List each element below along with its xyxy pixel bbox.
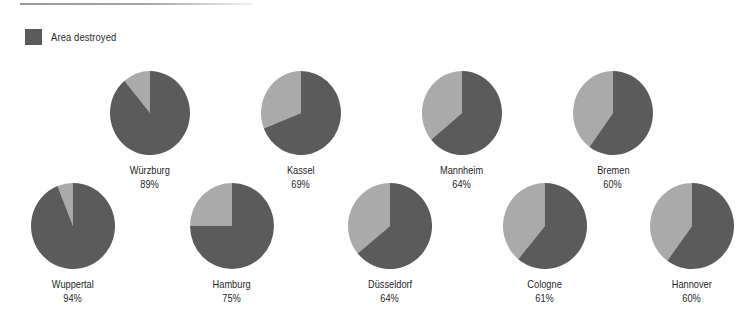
pie-chart-bremen: Bremen60% [571,69,655,190]
pie-chart-hamburg: Hamburg75% [188,181,276,304]
pie-city-label: Hannover [672,278,712,290]
pie-city-label: Düsseldorf [368,278,412,290]
pie-percent-label: 60% [683,292,701,304]
pie-city-label: Kassel [287,164,315,176]
pie-slice-destroyed [31,183,115,269]
pie-percent-label: 94% [64,292,82,304]
pie-city-label: Cologne [528,278,562,290]
pie-percent-label: 89% [141,178,159,190]
pie-graphic [259,69,343,157]
legend: Area destroyed [25,29,124,45]
pie-city-label: Mannheim [440,164,483,176]
pie-graphic [501,181,589,271]
pie-city-label: Bremen [597,164,629,176]
legend-swatch-area-destroyed [25,29,42,45]
pie-graphic [108,69,192,157]
pie-chart-mannheim: Mannheim64% [420,69,504,190]
top-divider-rule [20,3,252,5]
pie-percent-label: 64% [453,178,471,190]
pie-percent-label: 60% [604,178,622,190]
legend-label-area-destroyed: Area destroyed [51,31,116,43]
pie-percent-label: 61% [536,292,554,304]
pie-city-label: Wuppertal [52,278,94,290]
pie-percent-label: 64% [381,292,399,304]
pie-city-label: Würzburg [130,164,170,176]
pie-percent-label: 75% [223,292,241,304]
chart-canvas: Area destroyed Würzburg89%Kassel69%Mannh… [0,0,753,321]
pie-graphic [648,181,736,271]
pie-chart-wuppertal: Wuppertal94% [29,181,117,304]
pie-percent-label: 69% [292,178,310,190]
pie-chart-w-rzburg: Würzburg89% [108,69,192,190]
pie-chart-cologne: Cologne61% [501,181,589,304]
pie-chart-kassel: Kassel69% [259,69,343,190]
pie-city-label: Hamburg [213,278,251,290]
pie-slice-destroyed [110,71,190,155]
pie-graphic [420,69,504,157]
pie-chart-d-sseldorf: Düsseldorf64% [346,181,434,304]
pie-slice-remaining [190,183,232,226]
pie-chart-hannover: Hannover60% [648,181,736,304]
pie-graphic [346,181,434,271]
pie-graphic [29,181,117,271]
pie-graphic [188,181,276,271]
pie-graphic [571,69,655,157]
